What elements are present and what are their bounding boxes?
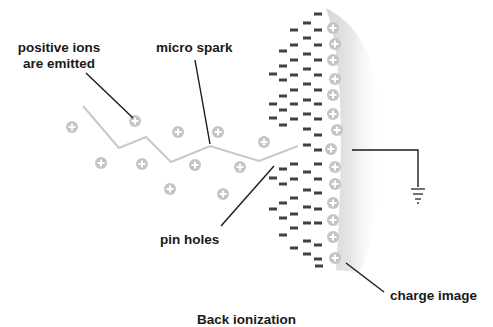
negative-charge-icon [303,171,311,174]
positive-ion-icon [136,158,148,170]
negative-charge-icon [269,117,277,120]
positive-ion-icon [327,108,339,120]
negative-charge-icon [269,208,277,211]
negative-charge-icon [290,29,298,32]
negative-charge-icon [290,197,298,200]
positive-ion-icon [258,136,270,148]
negative-charge-icon [314,258,322,261]
leader-pin-holes [221,166,274,226]
negative-charge-icon [314,149,322,152]
negative-charge-icon [279,50,287,53]
positive-ion-icon [327,231,339,243]
positive-ion-icon [95,157,107,169]
negative-charge-icon [290,213,298,216]
negative-charge-icon [290,163,298,166]
negative-charge-icon [314,89,322,92]
negative-charge-icon [314,29,322,32]
negative-charge-icon [303,37,311,40]
negative-charge-icon [314,208,322,211]
negative-charge-icon [303,144,311,147]
negative-charge-icon [279,183,287,186]
leader-positive-ions [86,73,133,118]
negative-charge-icon [303,128,311,131]
negative-charge-icon [314,178,322,181]
negative-charge-icon [269,73,277,76]
negative-charge-icon [290,103,298,106]
negative-charge-icon [290,227,298,230]
leader-charge-image [346,263,384,292]
positive-ion-icon [325,143,337,155]
positive-ion-icon [329,38,341,50]
label-charge-image: charge image [390,288,477,304]
positive-ion-icon [217,188,229,200]
micro-spark-path [83,106,298,162]
negative-charge-icon [279,234,287,237]
negative-charge-icon [290,74,298,77]
negative-charge-icon [279,124,287,127]
negative-charge-icon [314,134,322,137]
negative-charge-icon [279,79,287,82]
negative-charge-icon [314,74,322,77]
negative-charge-icon [303,253,311,256]
negative-charge-icon [303,53,311,56]
negative-charge-icon [303,222,311,225]
negative-charge-icon [314,44,322,47]
negative-charge-icon [290,247,298,250]
positive-ion-icon [329,252,341,264]
positive-ion-icon [212,126,224,138]
positive-ion-icon [327,197,339,209]
ground-icon [411,189,425,203]
positive-ion-icon [331,124,343,136]
negative-charge-icon [314,163,322,166]
negative-charge-icon [279,65,287,68]
negative-charges [269,13,323,268]
positive-ion-icon [329,178,341,190]
positive-ion-icon [327,89,339,101]
negative-charge-icon [290,89,298,92]
label-positive-ions-line1: positive ions [17,40,101,56]
negative-charge-icon [303,83,311,86]
negative-charge-icon [290,178,298,181]
negative-charge-icon [303,68,311,71]
negative-charge-icon [279,95,287,98]
negative-charge-icon [303,99,311,102]
diagram-caption: Back ionization [0,312,493,327]
label-positive-ions-line2: are emitted [17,56,101,72]
negative-charge-icon [303,240,311,243]
negative-charge-icon [314,59,322,62]
negative-charge-icon [290,44,298,47]
negative-charge-icon [269,177,277,180]
negative-charge-icon [314,192,322,195]
leader-micro-spark [195,60,210,144]
positive-ion-icon [329,73,341,85]
negative-charge-icon [290,59,298,62]
negative-charge-icon [314,103,322,106]
negative-charge-icon [314,13,322,16]
negative-charge-icon [303,113,311,116]
negative-charge-icon [290,118,298,121]
negative-charge-icon [314,244,322,247]
positive-ion-icon [172,126,184,138]
positive-ion-icon [164,183,176,195]
label-pin-holes: pin holes [160,232,219,248]
positive-ion-icon [329,161,341,173]
positive-ion-icon [327,22,339,34]
negative-charge-icon [279,202,287,205]
positive-ion-icon [327,54,339,66]
negative-charge-icon [314,222,322,225]
label-micro-spark: micro spark [156,40,233,56]
positive-ions [66,22,343,264]
negative-charge-icon [279,109,287,112]
positive-ion-icon [189,159,201,171]
negative-charge-icon [315,265,323,268]
label-positive-ions: positive ions are emitted [17,40,101,72]
negative-charge-icon [303,189,311,192]
positive-ion-icon [234,161,246,173]
positive-ion-icon [327,214,339,226]
negative-charge-icon [279,168,287,171]
negative-charge-icon [303,22,311,25]
positive-ion-icon [66,121,78,133]
negative-charge-icon [279,217,287,220]
negative-charge-icon [314,118,322,121]
negative-charge-icon [269,103,277,106]
